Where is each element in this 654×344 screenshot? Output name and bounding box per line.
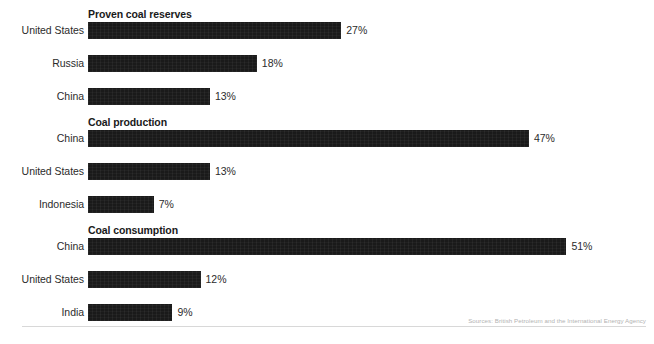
bar-row: United States27% xyxy=(0,22,654,55)
bar-track xyxy=(88,55,257,72)
bar xyxy=(88,163,210,180)
bar xyxy=(88,271,201,288)
category-label: Russia xyxy=(0,57,84,69)
bar xyxy=(88,196,154,213)
bar-row: United States13% xyxy=(0,163,654,196)
bar-value-label: 13% xyxy=(215,90,236,102)
bar-row: United States12% xyxy=(0,271,654,304)
category-label: United States xyxy=(0,24,84,36)
bar xyxy=(88,22,341,39)
category-label: China xyxy=(0,132,84,144)
bar-track xyxy=(88,163,210,180)
category-label: United States xyxy=(0,273,84,285)
category-label: China xyxy=(0,90,84,102)
bar-value-label: 51% xyxy=(571,240,592,252)
bar-value-label: 12% xyxy=(206,273,227,285)
bar-track xyxy=(88,130,529,147)
category-label: Indonesia xyxy=(0,198,84,210)
bar-track xyxy=(88,88,210,105)
bar-value-label: 9% xyxy=(177,306,192,318)
bar-track xyxy=(88,271,201,288)
bar xyxy=(88,55,257,72)
bar-value-label: 47% xyxy=(534,132,555,144)
group-title: Proven coal reserves xyxy=(88,8,192,20)
bar-value-label: 7% xyxy=(159,198,174,210)
bar xyxy=(88,238,566,255)
bar xyxy=(88,130,529,147)
bar-track xyxy=(88,196,154,213)
source-attribution: Sources: British Petroleum and the Inter… xyxy=(468,317,646,324)
bar-value-label: 18% xyxy=(262,57,283,69)
bar-row: Russia18% xyxy=(0,55,654,88)
source-divider xyxy=(22,326,646,327)
bar xyxy=(88,88,210,105)
bar-row: China47% xyxy=(0,130,654,163)
group-title: Coal production xyxy=(88,116,167,128)
coal-statistics-chart: Proven coal reservesUnited States27%Russ… xyxy=(0,0,654,344)
bar-track xyxy=(88,22,341,39)
category-label: India xyxy=(0,306,84,318)
category-label: United States xyxy=(0,165,84,177)
bar-row: China51% xyxy=(0,238,654,271)
group-title: Coal consumption xyxy=(88,224,178,236)
bar-track xyxy=(88,304,172,321)
bar-value-label: 13% xyxy=(215,165,236,177)
bar xyxy=(88,304,172,321)
category-label: China xyxy=(0,240,84,252)
group-rows: China47%United States13%Indonesia7% xyxy=(0,130,654,229)
bar-value-label: 27% xyxy=(346,24,367,36)
bar-track xyxy=(88,238,566,255)
group-rows: United States27%Russia18%China13% xyxy=(0,22,654,121)
